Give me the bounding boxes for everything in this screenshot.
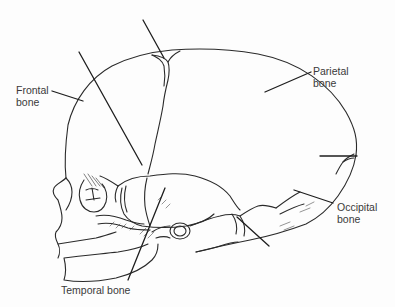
parietal-leader-line: [265, 72, 311, 92]
maxilla-outline: [58, 232, 116, 244]
ear-canal-inner: [174, 226, 186, 236]
sphenoid-fontanel: [115, 186, 118, 202]
occipital-suture-upper: [276, 192, 304, 214]
ear-canal-outer: [170, 223, 190, 239]
frontal-bone-label: Frontal bone: [16, 84, 49, 108]
face-profile: [53, 178, 66, 258]
sphenoid-fontanel-leader: [79, 52, 142, 165]
temporal-inner-suture: [145, 178, 150, 226]
anterior-fontanel-edge-2: [168, 51, 180, 62]
zygomatic-arch: [96, 215, 150, 230]
temporal-bone-label: Temporal bone: [61, 284, 130, 296]
mastoid-fontanel: [232, 214, 245, 236]
anterior-fontanel-edge: [152, 55, 165, 86]
occipital-leader-line: [294, 190, 333, 203]
coronal-suture: [148, 55, 169, 174]
orbit-inner: [86, 188, 100, 200]
occipital-outline: [196, 155, 356, 252]
parietal-bone-label: Parietal bone: [313, 65, 349, 89]
skull-drawing: [0, 0, 395, 307]
nasal-bone: [66, 178, 72, 210]
temporal-inner-suture-2: [125, 186, 127, 212]
squamosal-suture: [118, 174, 240, 210]
frontal-leader-line: [52, 91, 83, 101]
temporal-leader-line: [128, 188, 165, 280]
infant-skull-diagram: Frontal bone Parietal bone Occipital bon…: [0, 0, 395, 307]
mandible-outline: [64, 244, 158, 281]
occipital-bone-label: Occipital bone: [337, 201, 377, 225]
